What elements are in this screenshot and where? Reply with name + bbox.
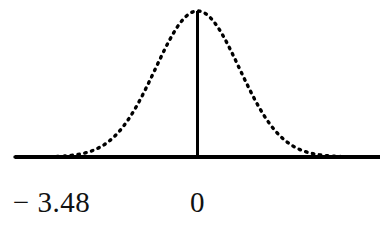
tick-label-center: 0 [162,188,234,217]
normal-curve-figure: − 3.48 0 [0,0,389,230]
tick-label-left: − 3.48 [0,188,122,217]
